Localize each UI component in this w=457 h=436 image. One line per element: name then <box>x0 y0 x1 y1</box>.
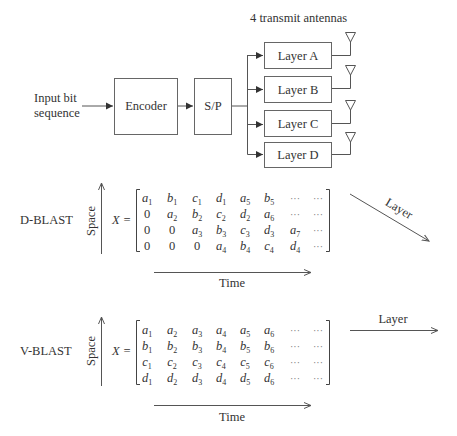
matrix-cell: d2 <box>240 207 250 223</box>
matrix-cell: a6 <box>264 207 274 223</box>
matrix-cell: c2 <box>167 355 177 371</box>
matrix-cell: a6 <box>264 323 274 339</box>
matrix-cell: d3 <box>192 371 202 387</box>
matrix-left-bracket <box>137 190 141 252</box>
matrix-cell: d3 <box>264 223 274 239</box>
matrix-left-bracket <box>137 321 141 385</box>
matrix-cell: 0 <box>144 239 150 253</box>
antenna-icon <box>346 66 356 76</box>
matrix-cell: b3 <box>192 339 202 355</box>
matrix-cell: ··· <box>290 193 300 204</box>
matrix-cell: b6 <box>264 339 274 355</box>
matrix-cell: ··· <box>313 357 323 368</box>
d-blast-matrix: a1b1c1d1a5b5······0a2b2c2d2a6······00a3b… <box>142 191 323 255</box>
matrix-cell: b1 <box>167 191 177 207</box>
matrix-cell: a4 <box>216 239 226 255</box>
layer-d: Layer D <box>248 133 356 168</box>
matrix-cell: c4 <box>216 355 226 371</box>
matrix-cell: c5 <box>240 355 250 371</box>
matrix-cell: a5 <box>240 191 250 207</box>
blast-diagram: 4 transmit antennas Input bit sequence E… <box>0 0 457 436</box>
matrix-cell: ··· <box>313 193 323 204</box>
matrix-cell: d2 <box>167 371 177 387</box>
v-blast-matrix: a1a2a3a4a5a6······b1b2b3b4b5b6······c1c2… <box>142 323 323 387</box>
matrix-cell: 0 <box>144 207 150 221</box>
matrix-cell: d4 <box>216 371 226 387</box>
matrix-cell: b5 <box>240 339 250 355</box>
matrix-cell: ··· <box>313 225 323 236</box>
transmitter-block-diagram: 4 transmit antennas Input bit sequence E… <box>34 11 356 168</box>
matrix-cell: c3 <box>192 355 202 371</box>
matrix-cell: ··· <box>290 357 300 368</box>
matrix-cell: b5 <box>264 191 274 207</box>
matrix-cell: a3 <box>192 323 202 339</box>
layer-label: Layer <box>378 312 408 326</box>
matrix-cell: a1 <box>142 323 152 339</box>
matrix-cell: b2 <box>167 339 177 355</box>
matrix-cell: ··· <box>313 325 323 336</box>
antennas-title: 4 transmit antennas <box>250 11 347 25</box>
matrix-cell: b4 <box>240 239 250 255</box>
time-label: Time <box>219 410 245 424</box>
matrix-cell: d1 <box>216 191 226 207</box>
matrix-cell: a1 <box>142 191 152 207</box>
matrix-cell: c2 <box>216 207 226 223</box>
matrix-cell: 0 <box>144 223 150 237</box>
matrix-cell: a3 <box>192 223 202 239</box>
matrix-cell: ··· <box>313 341 323 352</box>
matrix-cell: c3 <box>240 223 250 239</box>
antenna-icon <box>346 101 356 111</box>
matrix-cell: d6 <box>264 371 274 387</box>
matrix-lhs: X = <box>111 213 131 227</box>
svg-text:Layer C: Layer C <box>278 117 319 131</box>
matrix-cell: ··· <box>290 209 300 220</box>
matrix-cell: a2 <box>167 323 177 339</box>
matrix-cell: ··· <box>313 241 323 252</box>
encoder-label: Encoder <box>125 99 167 113</box>
antenna-icon <box>346 33 356 43</box>
matrix-cell: c1 <box>142 355 152 371</box>
svg-text:Layer A: Layer A <box>278 49 319 63</box>
svg-text:Layer B: Layer B <box>278 83 319 97</box>
matrix-cell: b2 <box>192 207 202 223</box>
time-label: Time <box>219 276 245 290</box>
matrix-cell: a5 <box>240 323 250 339</box>
matrix-cell: ··· <box>313 209 323 220</box>
matrix-right-bracket <box>326 321 330 385</box>
layer-label: Layer <box>383 195 416 222</box>
antenna-icon <box>346 133 356 143</box>
matrix-cell: d1 <box>142 371 152 387</box>
matrix-cell: d5 <box>240 371 250 387</box>
matrix-cell: 0 <box>169 223 175 237</box>
d-blast-section: D-BLAST Space X = a1b1c1d1a5b5······0a2b… <box>20 183 429 290</box>
matrix-cell: a2 <box>167 207 177 223</box>
d-blast-label: D-BLAST <box>20 213 73 227</box>
space-label: Space <box>84 206 98 236</box>
layer-c: Layer C <box>248 101 356 137</box>
matrix-lhs: X = <box>111 344 131 358</box>
matrix-cell: 0 <box>194 239 200 253</box>
matrix-cell: c4 <box>264 239 274 255</box>
v-blast-label: V-BLAST <box>20 344 72 358</box>
matrix-right-bracket <box>326 190 330 252</box>
matrix-cell: a4 <box>216 323 226 339</box>
matrix-cell: ··· <box>290 325 300 336</box>
matrix-cell: b4 <box>216 339 226 355</box>
v-blast-section: V-BLAST Space X = a1a2a3a4a5a6······b1b2… <box>20 312 438 424</box>
matrix-cell: b1 <box>142 339 152 355</box>
matrix-cell: ··· <box>290 373 300 384</box>
matrix-cell: b3 <box>216 223 226 239</box>
matrix-cell: c6 <box>264 355 274 371</box>
matrix-cell: d4 <box>290 239 300 255</box>
matrix-cell: a7 <box>290 223 300 239</box>
matrix-cell: 0 <box>169 239 175 253</box>
svg-text:Layer D: Layer D <box>277 148 318 162</box>
layer-b: Layer B <box>248 66 356 103</box>
space-label: Space <box>84 336 98 366</box>
sp-label: S/P <box>204 99 221 113</box>
matrix-cell: ··· <box>290 341 300 352</box>
matrix-cell: c1 <box>192 191 202 207</box>
input-label-line2: sequence <box>34 106 80 120</box>
input-label-line1: Input bit <box>34 91 77 105</box>
matrix-cell: ··· <box>313 373 323 384</box>
